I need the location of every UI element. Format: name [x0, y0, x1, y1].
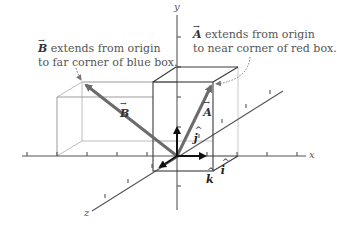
- vector-b-note-letter: B: [38, 42, 47, 56]
- axis-x-label: x: [309, 150, 315, 160]
- vector-b-note-line1: extends from origin: [51, 42, 161, 55]
- unit-vector-i-label: i: [221, 165, 225, 176]
- axis-y-label: y: [174, 2, 180, 12]
- vector-b-note-line2: to far corner of blue box.: [38, 56, 178, 69]
- vector-a-note-line1: extends from origin: [205, 28, 315, 41]
- vector-b-label: B: [120, 108, 129, 119]
- vector-b-note: B extends from origin to far corner of b…: [38, 42, 178, 70]
- unit-vector-k-label: k: [206, 174, 214, 185]
- vector-a-label: A: [203, 107, 212, 118]
- vector-a-note-line2: to near corner of red box.: [193, 42, 337, 55]
- vector-b-arrow: [86, 85, 177, 156]
- unit-vector-j-label: j: [194, 133, 198, 144]
- vector-a-note: A extends from origin to near corner of …: [193, 28, 337, 56]
- blue-box: [57, 82, 177, 156]
- unit-vector-k-arrow: [160, 156, 177, 167]
- vector-a-arrow: [177, 86, 211, 156]
- vector-a-note-letter: A: [193, 28, 202, 42]
- axis-z-label: z: [84, 208, 89, 218]
